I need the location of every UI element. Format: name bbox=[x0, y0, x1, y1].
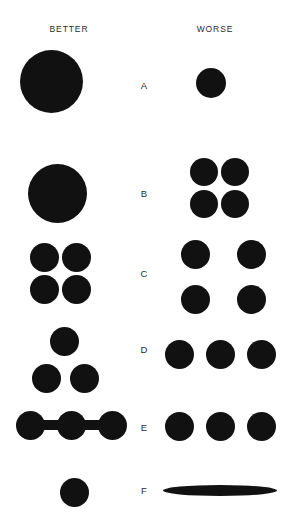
row-label-e: E bbox=[136, 422, 152, 433]
row-c-worse-circle bbox=[237, 240, 266, 269]
row-d-worse-circle bbox=[165, 340, 194, 369]
row-b-worse-circle bbox=[221, 190, 249, 218]
row-e-worse-circle bbox=[206, 412, 235, 441]
row-c-better-circle bbox=[30, 275, 59, 304]
row-e-better-circle bbox=[98, 411, 127, 440]
row-b-worse-circle bbox=[190, 190, 218, 218]
row-d-worse-circle bbox=[206, 340, 235, 369]
row-e-worse-circle bbox=[165, 412, 194, 441]
row-d-worse-circle bbox=[247, 340, 276, 369]
row-e-better-circle bbox=[16, 411, 45, 440]
row-a-better-circle bbox=[20, 50, 83, 113]
row-label-c: C bbox=[136, 268, 152, 279]
row-c-worse-circle bbox=[181, 240, 210, 269]
row-f-better-circle bbox=[60, 478, 89, 507]
row-label-b: B bbox=[136, 188, 152, 199]
row-f-worse-ellipse bbox=[163, 485, 277, 496]
row-label-a: A bbox=[136, 80, 152, 91]
row-e-worse-circle bbox=[247, 412, 276, 441]
column-header-better: BETTER bbox=[34, 24, 104, 34]
row-b-worse-circle bbox=[221, 158, 249, 186]
row-label-d: D bbox=[136, 344, 152, 355]
row-c-better-circle bbox=[30, 243, 59, 272]
row-d-better-circle bbox=[32, 364, 61, 393]
row-e-better-circle bbox=[57, 411, 86, 440]
row-a-worse-circle bbox=[196, 68, 226, 98]
row-c-worse-circle bbox=[181, 285, 210, 314]
column-header-worse: WORSE bbox=[180, 24, 250, 34]
dispersion-comparison-figure: BETTER WORSE A B C D E F bbox=[0, 0, 290, 529]
row-d-better-circle bbox=[70, 364, 99, 393]
row-d-better-circle bbox=[50, 327, 79, 356]
row-b-better-circle bbox=[28, 164, 87, 223]
row-b-worse-circle bbox=[190, 158, 218, 186]
row-c-better-circle bbox=[62, 243, 91, 272]
row-c-worse-circle bbox=[237, 285, 266, 314]
row-label-f: F bbox=[136, 485, 152, 496]
row-c-better-circle bbox=[62, 275, 91, 304]
